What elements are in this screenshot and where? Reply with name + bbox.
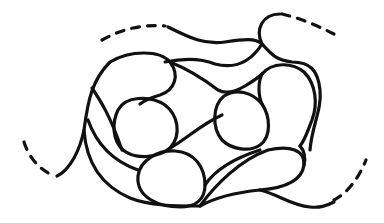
curve-upper-band (165, 44, 262, 66)
lobe-upper-right (262, 65, 315, 146)
pebble-left (114, 98, 177, 156)
dashed-line-top-left (102, 26, 165, 40)
curve-top-hook (259, 14, 280, 44)
curve-bottom-inner (205, 150, 260, 185)
teardrop-bottom-right (200, 148, 304, 206)
quilting-motif-illustration (0, 0, 384, 223)
curve-mid-diagonal (170, 62, 262, 92)
pebble-bottom (138, 151, 205, 207)
line-drawing (0, 0, 384, 223)
dashed-line-top-right (282, 14, 334, 34)
curve-top (168, 27, 320, 150)
curve-bottom-tail (260, 190, 334, 207)
lobe-upper-right-inner (259, 74, 262, 104)
dashed-line-right (334, 160, 366, 200)
dashed-line-left (24, 142, 55, 176)
